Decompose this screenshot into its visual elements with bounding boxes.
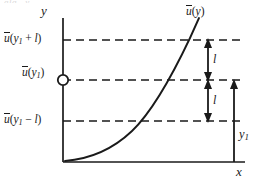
curve-label: u(y) bbox=[186, 6, 205, 18]
lower-mixing-length-arrow bbox=[204, 79, 212, 123]
upper-mixing-length-label: l bbox=[213, 53, 216, 65]
tick-label-middle: u(y1) bbox=[22, 67, 44, 80]
u-bar-glyph-lower: u bbox=[4, 114, 10, 126]
figure-canvas bbox=[0, 0, 261, 182]
reference-point-marker bbox=[58, 75, 68, 85]
lower-mixing-length-label: l bbox=[213, 94, 216, 106]
u-bar-glyph-middle: u bbox=[22, 67, 28, 79]
y-axis-label: y bbox=[41, 4, 47, 17]
wall-distance-label: y1 bbox=[239, 128, 249, 142]
u-bar-glyph-upper: u bbox=[4, 33, 10, 45]
upper-mixing-length-arrow bbox=[204, 38, 212, 82]
tick-label-upper: u(y1 + l) bbox=[4, 33, 41, 46]
u-bar-glyph-curve: u bbox=[186, 6, 192, 18]
x-axis-label: x bbox=[236, 165, 242, 178]
tick-label-lower: u(y1 − l) bbox=[4, 114, 41, 127]
velocity-profile-figure: alg. .y, bbox=[0, 0, 261, 182]
